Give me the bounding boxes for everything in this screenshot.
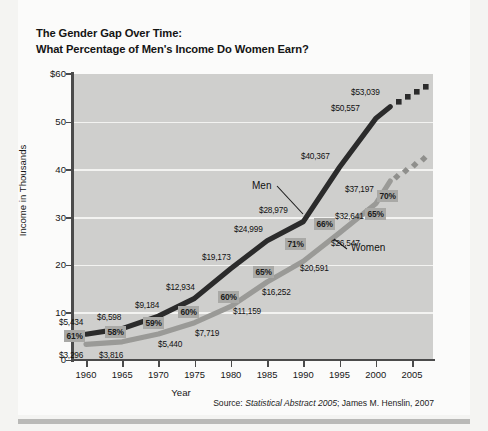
- gridline-50: [73, 122, 433, 124]
- y-tick-50: [66, 122, 72, 124]
- source-note: Source: Statistical Abstract 2005; James…: [0, 398, 452, 408]
- women-value-1960: $3,296: [59, 350, 83, 360]
- x-tick-1980: [231, 361, 233, 367]
- y-label-60-text: $60: [26, 68, 66, 79]
- series-label-men: Men: [252, 180, 271, 191]
- figure-root: The Gender Gap Over Time: What Percentag…: [0, 0, 488, 431]
- women-value-1990: $20,591: [300, 263, 329, 273]
- x-axis-title: Year: [121, 387, 241, 398]
- ratio-badge-1975: 60%: [178, 306, 199, 318]
- source-title: Statistical Abstract 2005: [245, 398, 337, 408]
- x-tick-1960: [86, 361, 88, 367]
- bottom-rule: [18, 419, 470, 424]
- chart-title-line-2: What Percentage of Men's Income Do Women…: [36, 42, 436, 58]
- ratio-badge-1960: 61%: [64, 330, 85, 342]
- women-value-1980: $11,159: [233, 306, 261, 316]
- women-value-1975: $7,719: [195, 328, 219, 338]
- source-suffix: ; James M. Henslin, 2007: [337, 398, 434, 408]
- men-value-2002: $53,039: [351, 87, 380, 97]
- women-value-2002: $37,197: [345, 184, 374, 194]
- ratio-badge-2002: 70%: [377, 190, 398, 202]
- y-tick-20: [66, 265, 72, 267]
- ratio-badge-1970: 59%: [143, 317, 164, 329]
- y-label-20-text: 20: [26, 259, 66, 270]
- x-tick-1995: [340, 361, 342, 367]
- men-value-1960: $5,434: [59, 317, 83, 327]
- men-value-1990: $28,979: [259, 205, 288, 215]
- x-label-2005: 2005: [391, 369, 433, 380]
- y-tick-10: [66, 312, 72, 314]
- x-tick-2000: [376, 361, 378, 367]
- y-label-50-text: 50: [26, 116, 66, 127]
- gridline-40: [73, 169, 433, 171]
- women-value-2000: $32,641: [335, 211, 364, 221]
- y-tick-60: [66, 73, 72, 75]
- women-value-1970: $5,440: [158, 339, 182, 349]
- women-value-1985: $16,252: [262, 287, 291, 297]
- women-value-1965: $3,816: [99, 350, 123, 360]
- men-value-1975: $12,934: [166, 282, 195, 292]
- ratio-badge-1980: 60%: [218, 291, 239, 303]
- x-tick-1970: [158, 361, 160, 367]
- ratio-badge-1965: 58%: [105, 326, 126, 338]
- x-tick-1975: [195, 361, 197, 367]
- x-tick-1985: [267, 361, 269, 367]
- chart-title-line-1: The Gender Gap Over Time:: [36, 26, 436, 42]
- y-label-40-text: 40: [26, 164, 66, 175]
- ratio-badge-1985: 65%: [253, 266, 274, 278]
- y-axis-title: Income in Thousands: [17, 126, 28, 256]
- x-tick-1965: [122, 361, 124, 367]
- x-tick-1990: [303, 361, 305, 367]
- y-tick-30: [66, 217, 72, 219]
- ratio-badge-1995: 66%: [314, 218, 335, 230]
- men-value-1965: $6,598: [97, 312, 121, 322]
- x-axis-line: [71, 359, 435, 361]
- ratio-badge-2000: 65%: [365, 208, 386, 220]
- ratio-badge-1990: 71%: [285, 238, 306, 250]
- chart-title: The Gender Gap Over Time: What Percentag…: [36, 26, 436, 57]
- men-value-2000: $50,557: [331, 103, 360, 113]
- men-value-1980: $19,173: [202, 252, 231, 262]
- y-tick-40: [66, 169, 72, 171]
- y-label-30-text: 30: [26, 212, 66, 223]
- source-prefix: Source:: [213, 398, 243, 408]
- men-value-1985: $24,999: [234, 224, 263, 234]
- x-tick-2005: [412, 361, 414, 367]
- men-value-1995: $40,367: [301, 151, 330, 161]
- men-value-1970: $9,184: [135, 300, 159, 310]
- series-label-women: Women: [351, 242, 385, 253]
